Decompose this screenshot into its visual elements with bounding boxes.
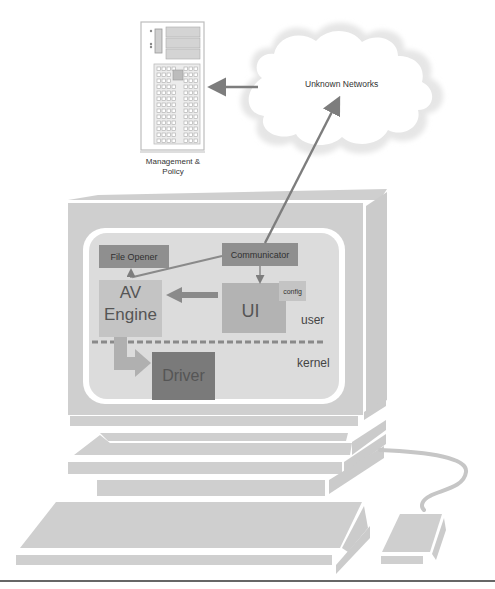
mouse-cable — [380, 450, 466, 510]
server-tower-icon — [140, 22, 205, 152]
file-opener-label: File Opener — [99, 245, 169, 268]
av-engine-label-line1: AV — [99, 284, 162, 301]
config-label: config — [279, 281, 306, 301]
communicator-label: Communicator — [222, 243, 298, 266]
user-zone-label: user — [301, 314, 324, 326]
server-label-line1: Management & — [138, 158, 208, 166]
server-label-line2: Policy — [138, 168, 208, 176]
diagram-shapes — [0, 0, 495, 589]
keyboard-icon — [16, 502, 370, 574]
mouse-icon — [381, 514, 446, 564]
av-architecture-diagram: Management & Policy Unknown Networks Fil… — [0, 0, 495, 589]
cloud-label: Unknown Networks — [305, 80, 378, 89]
driver-label: Driver — [152, 352, 215, 400]
ui-label: UI — [222, 302, 279, 320]
av-engine-label-line2: Engine — [99, 306, 162, 323]
kernel-zone-label: kernel — [297, 357, 330, 369]
